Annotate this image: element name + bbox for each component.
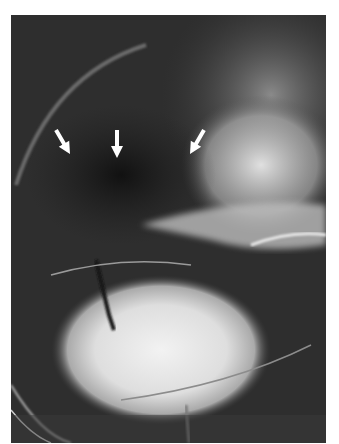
- arrow-icon-right: [185, 127, 209, 157]
- radiograph-image: [11, 15, 326, 443]
- arrow-icon-center: [111, 130, 123, 158]
- arrow-annotations: [11, 15, 326, 443]
- arrow-icon-left: [51, 127, 75, 157]
